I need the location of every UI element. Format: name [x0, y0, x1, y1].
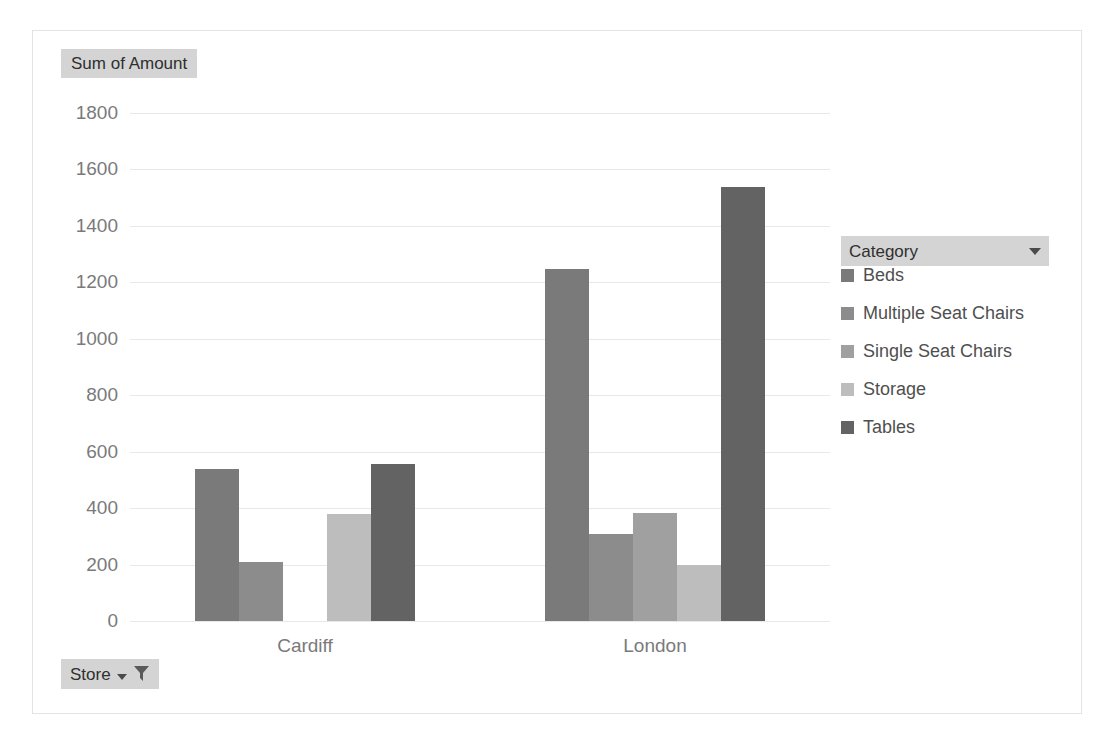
bar[interactable] [195, 469, 239, 621]
bar[interactable] [677, 565, 721, 621]
bar-group-cardiff: Cardiff [130, 113, 480, 621]
bar-slot [327, 113, 371, 621]
category-field-label: Category [849, 243, 918, 260]
bar-slot [589, 113, 633, 621]
gridline [130, 621, 830, 622]
y-axis-tick-label: 600 [86, 441, 118, 463]
legend-item[interactable]: Storage [841, 370, 1051, 408]
legend-swatch [841, 269, 854, 282]
legend-swatch [841, 383, 854, 396]
legend-label: Tables [863, 417, 915, 438]
legend-swatch [841, 421, 854, 434]
value-field-label: Sum of Amount [71, 55, 187, 72]
chevron-down-icon[interactable] [1029, 248, 1041, 255]
chevron-down-icon[interactable] [117, 674, 127, 680]
value-field-button[interactable]: Sum of Amount [61, 49, 197, 78]
y-axis-tick-label: 1800 [76, 102, 118, 124]
x-axis-category-label: Cardiff [130, 635, 480, 657]
category-field-button[interactable]: Category [841, 236, 1049, 266]
bars-layer: CardiffLondon [130, 113, 830, 621]
bar[interactable] [239, 562, 283, 621]
legend-swatch [841, 307, 854, 320]
store-filter-button[interactable]: Store [61, 659, 159, 689]
bar-slot [677, 113, 721, 621]
bar[interactable] [545, 269, 589, 621]
y-axis-tick-label: 1600 [76, 158, 118, 180]
legend-item[interactable]: Tables [841, 408, 1051, 446]
legend-item[interactable]: Single Seat Chairs [841, 332, 1051, 370]
bar-slot [239, 113, 283, 621]
y-axis-tick-label: 1400 [76, 215, 118, 237]
bar-slot [633, 113, 677, 621]
x-axis-category-label: London [480, 635, 830, 657]
bar[interactable] [633, 513, 677, 621]
bar-group-london: London [480, 113, 830, 621]
bar-slot [545, 113, 589, 621]
y-axis-tick-label: 1200 [76, 271, 118, 293]
y-axis-tick-label: 400 [86, 497, 118, 519]
y-axis-tick-label: 200 [86, 554, 118, 576]
legend-label: Storage [863, 379, 926, 400]
y-axis-tick-label: 1000 [76, 328, 118, 350]
plot-area: 020040060080010001200140016001800 Cardif… [130, 113, 830, 621]
legend-item[interactable]: Multiple Seat Chairs [841, 294, 1051, 332]
legend-label: Multiple Seat Chairs [863, 303, 1024, 324]
bar-slot [283, 113, 327, 621]
bar-slot [195, 113, 239, 621]
legend: Category BedsMultiple Seat ChairsSingle … [841, 236, 1051, 446]
y-axis-tick-label: 0 [107, 610, 118, 632]
legend-label: Single Seat Chairs [863, 341, 1012, 362]
bar[interactable] [327, 514, 371, 621]
y-axis-tick-label: 800 [86, 384, 118, 406]
bar-slot [721, 113, 765, 621]
legend-swatch [841, 345, 854, 358]
store-field-label: Store [70, 666, 111, 683]
bar[interactable] [721, 187, 765, 621]
bar[interactable] [371, 464, 415, 621]
bar-slot [371, 113, 415, 621]
bar[interactable] [589, 534, 633, 621]
pivot-chart-frame[interactable]: Sum of Amount 02004006008001000120014001… [32, 30, 1082, 714]
funnel-icon[interactable] [133, 664, 150, 685]
legend-entries: BedsMultiple Seat ChairsSingle Seat Chai… [841, 256, 1051, 446]
legend-label: Beds [863, 265, 904, 286]
